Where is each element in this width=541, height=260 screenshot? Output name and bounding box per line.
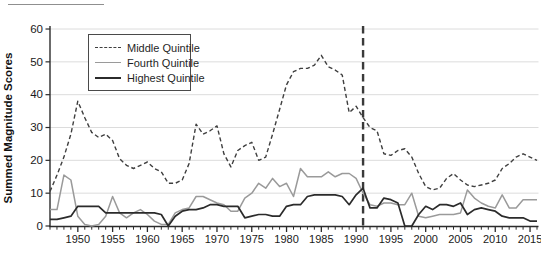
x-tick-label: 1970 (205, 233, 229, 245)
legend-label: Middle Quintile (127, 42, 200, 54)
dashed-line-sample-icon (95, 47, 121, 48)
legend-item-fourth-quintile: Fourth Quintile (95, 55, 186, 70)
y-tick-label: 50 (30, 56, 43, 68)
x-tick-label: 1985 (309, 233, 333, 245)
y-tick-label: 60 (30, 23, 43, 35)
y-tick-label: 10 (30, 187, 43, 199)
legend-label: Highest Quintile (127, 72, 205, 84)
x-tick-label: 1950 (66, 233, 90, 245)
x-tick-label: 1980 (274, 233, 298, 245)
x-tick-label: 1995 (379, 233, 403, 245)
x-tick-label: 1965 (170, 233, 194, 245)
fourth-quintile-line (50, 169, 537, 227)
x-tick-label: 2010 (483, 233, 507, 245)
chart-figure: 0102030405060195019551960196519701975198… (0, 0, 541, 260)
y-tick-label: 20 (30, 154, 43, 166)
x-tick-label: 2005 (448, 233, 472, 245)
black-line-sample-icon (95, 77, 121, 79)
x-tick-label: 1975 (240, 233, 264, 245)
x-tick-label: 1960 (135, 233, 159, 245)
legend-label: Fourth Quintile (127, 57, 199, 69)
x-tick-label: 1955 (100, 233, 124, 245)
y-tick-label: 40 (30, 88, 43, 100)
legend-item-middle-quintile: Middle Quintile (95, 40, 186, 55)
chart-legend: Middle Quintile Fourth Quintile Highest … (88, 34, 191, 91)
gray-line-sample-icon (95, 62, 121, 63)
y-tick-label: 0 (37, 220, 43, 232)
x-tick-label: 2015 (518, 233, 541, 245)
legend-item-highest-quintile: Highest Quintile (95, 70, 186, 85)
y-axis-title: Summed Magnitude Scores (2, 53, 14, 204)
line-chart-canvas: 0102030405060195019551960196519701975198… (0, 0, 541, 260)
x-tick-label: 1990 (344, 233, 368, 245)
x-tick-label: 2000 (413, 233, 437, 245)
y-tick-label: 30 (30, 121, 43, 133)
